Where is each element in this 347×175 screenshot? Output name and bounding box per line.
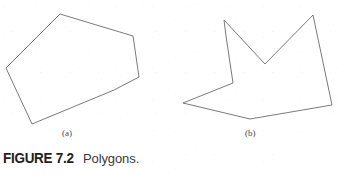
subfigure-label-a: (a): [62, 128, 72, 138]
figure-container: (a) (b) FIGURE 7.2 Polygons.: [0, 0, 347, 175]
convex-polygon-shape: [6, 14, 139, 124]
polygon-drawing-canvas: [0, 0, 347, 140]
figure-title: Polygons.: [83, 151, 139, 166]
figure-caption: FIGURE 7.2 Polygons.: [3, 150, 139, 166]
subfigure-label-b: (b): [245, 128, 256, 138]
figure-number: FIGURE 7.2: [3, 150, 74, 166]
figure-caption-row: FIGURE 7.2 Polygons.: [0, 150, 347, 172]
concave-polygon-shape: [183, 15, 332, 119]
